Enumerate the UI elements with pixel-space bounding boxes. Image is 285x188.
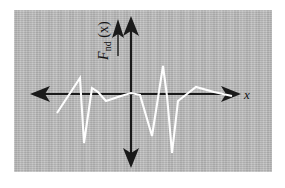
y-axis-label-argument: (x) xyxy=(96,21,111,41)
x-axis-label: x xyxy=(244,87,250,103)
y-label-leader-arrow xyxy=(112,19,124,56)
figure-root: Fnd (x) x xyxy=(0,0,285,188)
y-axis-label: Fnd (x) xyxy=(95,0,113,60)
y-axis-label-subscript: nd xyxy=(102,41,113,51)
signal-trace xyxy=(57,66,232,153)
plot-graphics xyxy=(0,0,285,188)
y-axis-label-main: F xyxy=(96,51,111,60)
